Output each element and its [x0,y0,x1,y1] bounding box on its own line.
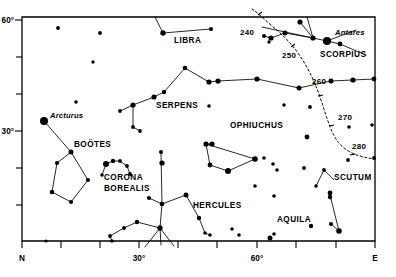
star-antares [323,37,331,45]
label-hercules: HERCULES [193,201,242,210]
label-libra: LIBRA [174,36,201,45]
x-axis-labels: N 30° 60° E [19,254,378,263]
x-label-n: N [19,254,25,263]
ecliptic-label-250: 250 [282,51,296,60]
x-label-30: 30° [133,254,145,263]
y-label-30: 30° [2,127,14,136]
x-label-e: E [372,254,378,263]
star-arcturus [40,117,48,125]
ecliptic-label-260: 260 [312,77,326,86]
label-antares: Antares [334,28,365,37]
label-serpens: SERPENS [156,101,198,110]
x-label-60: 60° [251,254,263,263]
label-corona-line2: BOREALIS [104,184,150,193]
label-corona-line1: CORONA [104,173,143,182]
label-arcturus: Arcturus [49,111,83,120]
y-axis-labels: 60° 30° [2,16,14,136]
label-ophiuchus: OPHIUCHUS [230,121,283,130]
constellation-labels: LIBRA SCORPIUS SERPENS OPHIUCHUS BOÖTES … [74,36,372,224]
constellation-lines-bootes [44,121,88,202]
y-label-60: 60° [2,16,14,25]
star-name-labels: Arcturus Antares [49,28,365,120]
ecliptic-label-280: 280 [352,142,366,151]
label-scutum: SCUTUM [334,173,372,182]
ecliptic-label-240: 240 [240,28,254,37]
ecliptic-label-270: 270 [338,113,352,122]
constellation-lines-hercules [110,152,210,247]
constellation-lines-scutum [316,170,324,186]
label-scorpius: SCORPIUS [320,50,366,59]
y-axis-ticks [15,20,22,205]
label-aquila: AQUILA [277,215,311,224]
label-leader-lines [324,170,334,180]
sky-map-svg: LIBRA SCORPIUS SERPENS OPHIUCHUS BOÖTES … [0,0,396,277]
star-chart: LIBRA SCORPIUS SERPENS OPHIUCHUS BOÖTES … [0,0,396,277]
label-bootes: BOÖTES [74,139,111,149]
ecliptic-labels: 240 250 260 270 280 [240,28,366,151]
x-axis-ticks [22,241,375,248]
